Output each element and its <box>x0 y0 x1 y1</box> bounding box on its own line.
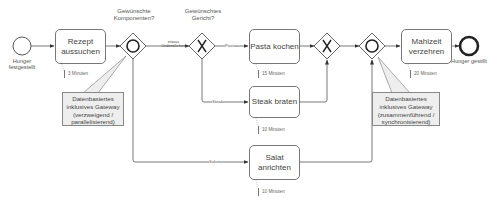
annotation-line: (verzweigend / <box>65 111 121 119</box>
inclusive-join-gateway[interactable] <box>359 33 385 59</box>
annotation-line: (zusammenführend / <box>375 111 437 119</box>
annotation-line: Datenbasiertes <box>375 95 437 103</box>
annotation-line: inklusives Gateway <box>375 103 437 111</box>
annotation-line: synchronisierend) <box>375 118 437 126</box>
flow-steak-to-xor-join <box>300 60 327 102</box>
duration-salat: 10 Minuten <box>258 188 285 196</box>
task-pasta-kochen[interactable]: Pasta kochen <box>249 29 300 64</box>
flow-or-to-salat <box>133 59 248 162</box>
flow-label-salat: Salat <box>209 160 219 164</box>
duration-mahlzeit: 20 Minuten <box>410 70 437 78</box>
flow-label-steak: Steak <box>212 100 223 104</box>
exclusive-split-gateway[interactable] <box>189 33 215 59</box>
exclusive-join-gateway[interactable] <box>314 33 340 59</box>
duration-pasta: 15 Minuten <box>258 70 285 78</box>
duration-steak: 10 Minuten <box>258 126 285 134</box>
start-event-circle[interactable] <box>13 37 31 55</box>
duration-rezept: 3 Minuten <box>64 70 88 78</box>
annotation-line: inklusives Gateway <box>65 103 121 111</box>
task-mahlzeit-verzehren[interactable]: Mahlzeit verzehren <box>401 29 452 64</box>
annotation-inclusive-split: Datenbasiertes inklusives Gateway (verzw… <box>62 92 124 126</box>
annotation-line: Datenbasiertes <box>65 95 121 103</box>
end-event-circle[interactable] <box>460 37 478 55</box>
flow-xor-to-steak <box>202 59 248 102</box>
annotation-inclusive-join: Datenbasiertes inklusives Gateway (zusam… <box>372 92 440 126</box>
end-event-label: Hunger gestillt <box>451 58 487 64</box>
flow-label-ordentliches: etwas Ordentliches <box>160 40 187 49</box>
start-event-label: Hunger festgestellt <box>2 58 42 71</box>
flow-label-pasta: Pasta <box>225 44 236 48</box>
flow-salat-to-or-join <box>300 60 372 162</box>
task-rezept-aussuchen[interactable]: Rezept aussuchen <box>55 29 106 64</box>
inclusive-split-gateway[interactable] <box>120 33 146 59</box>
xor-split-question: Gewünschtes Gericht? <box>180 8 226 22</box>
annotation-line: parallelisierend) <box>65 118 121 126</box>
task-steak-braten[interactable]: Steak braten <box>249 86 300 118</box>
or-split-question: Gewünschte Komponenten? <box>110 8 158 22</box>
task-salat-anrichten[interactable]: Salat anrichten <box>249 145 300 180</box>
